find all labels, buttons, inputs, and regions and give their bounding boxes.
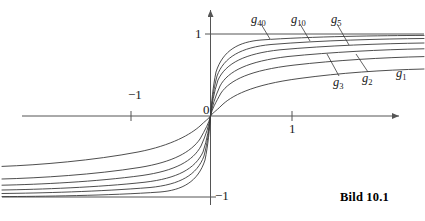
- y-tick-label-negative-one: −1: [215, 189, 229, 202]
- figure-caption: Bild 10.1: [340, 190, 389, 205]
- x-tick-label-positive-one: 1: [289, 122, 296, 135]
- curve-label-g3-index: 3: [339, 81, 343, 91]
- curve-g2: [2, 57, 424, 179]
- y-tick-label-positive-one: 1: [195, 27, 202, 40]
- curve-g1: [2, 69, 424, 166]
- curve-label-g5-index: 5: [337, 18, 341, 28]
- curve-label-g40: g40: [251, 13, 266, 26]
- curve-label-g10: g10: [291, 13, 306, 26]
- leader-g3: [327, 54, 339, 76]
- plot-canvas: [0, 0, 425, 221]
- origin-label: 0: [203, 103, 210, 116]
- curve-label-g10-index: 10: [297, 18, 306, 28]
- figure-container: 0 −1 1 1 −1 g40 g10 g5 g3 g2 g1 Bild 10.…: [0, 0, 425, 221]
- curve-label-g40-index: 40: [257, 18, 266, 28]
- curve-label-g1: g1: [396, 67, 407, 80]
- curve-label-g3: g3: [333, 76, 344, 89]
- curve-label-g5: g5: [331, 13, 342, 26]
- curve-g3: [2, 49, 424, 185]
- curve-label-g2-index: 2: [368, 77, 372, 87]
- x-tick-label-negative-one: −1: [128, 88, 142, 101]
- curve-label-g1-index: 1: [402, 72, 406, 82]
- curve-label-g2: g2: [362, 72, 373, 85]
- leader-g2: [356, 54, 368, 72]
